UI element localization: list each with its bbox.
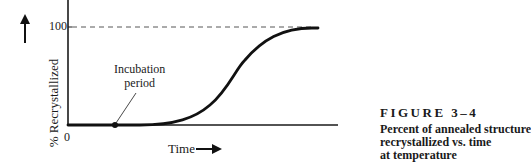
y-tick-100: 100 bbox=[49, 19, 67, 34]
annotation-line-2: period bbox=[114, 76, 165, 90]
incubation-period-annotation: Incubation period bbox=[114, 62, 165, 90]
figure-caption: Percent of annealed structure recrystall… bbox=[380, 123, 531, 162]
origin-tick-0: 0 bbox=[64, 130, 70, 145]
y-axis-arrow-icon bbox=[20, 14, 30, 43]
y-axis-label: % Recrystallized bbox=[46, 59, 62, 147]
annotation-leader-line bbox=[116, 93, 136, 123]
x-axis-arrow-icon bbox=[196, 144, 222, 154]
x-axis-label: Time bbox=[168, 141, 195, 157]
annotation-line-1: Incubation bbox=[114, 62, 165, 76]
figure-number: FIGURE 3–4 bbox=[380, 105, 478, 121]
recrystallization-curve bbox=[68, 28, 318, 125]
incubation-point-marker bbox=[112, 122, 118, 128]
caption-line-3: at temperature bbox=[380, 149, 531, 162]
